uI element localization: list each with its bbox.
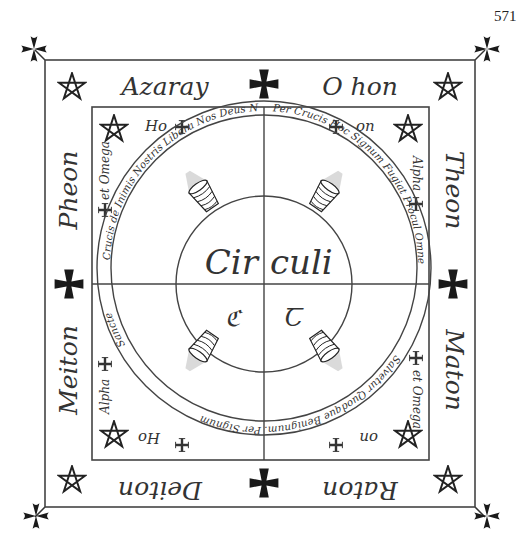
word-alpha-right: Alpha [410,155,424,191]
name-theon: Theon [440,151,469,230]
cross-pattee-icon [250,469,279,498]
name-maton: Maton [440,328,469,411]
name-azaray: Azaray [119,72,209,101]
name-pheon: Pheon [54,151,83,231]
pentagram-icon [435,466,461,491]
pentagram-icon [101,421,127,446]
small-cross-icon [176,439,189,452]
word-et-omega-left: et Omega [98,141,112,200]
word-on-bottom: on [359,429,378,447]
word-on-top: on [356,117,375,135]
word-ho-top: Ho [144,117,167,135]
pentagram-icon [59,73,85,98]
horn-icon [179,166,221,214]
small-cross-icon [410,352,423,365]
cross-pattee-icon [55,270,84,299]
pentagram-icon [101,115,127,140]
magic-seal-diagram: Azaray O hon Deiton Raton Pheon Meiton T… [0,0,530,547]
horn-icon [307,166,349,214]
name-raton: Raton [322,476,399,505]
pentagram-icon [435,73,461,98]
name-deiton: Deiton [118,476,203,505]
pentagram-icon [395,115,421,140]
name-ohon: O hon [322,72,398,101]
ring-text-left: Sancte [102,311,127,349]
word-ho-bottom: Ho [138,429,161,447]
word-et-omega-right: et Omega [410,370,424,429]
cross-pattee-icon [250,70,279,99]
small-cross-icon [330,439,343,452]
sigil-right: Ꞇ [285,304,304,332]
center-word-left: Cir [205,242,260,282]
center-word-right: culi [270,242,333,282]
name-meiton: Meiton [54,325,83,416]
word-alpha-left: Alpha [98,379,112,415]
small-cross-icon [99,358,112,371]
corner-cross-icon [474,503,500,529]
cross-pattee-icon [439,270,468,299]
pentagram-icon [59,466,85,491]
